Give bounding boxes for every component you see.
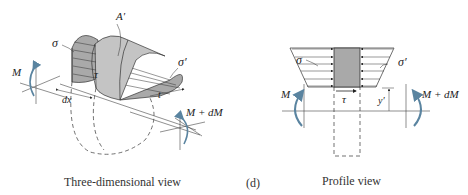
label-y-prime: y′ bbox=[377, 95, 385, 106]
label-moment-right: M + dM bbox=[185, 106, 224, 118]
label-sigma-prime-profile: σ′ bbox=[398, 55, 407, 69]
label-dx: dx bbox=[62, 94, 72, 105]
caption-three-dimensional: Three-dimensional view bbox=[64, 175, 181, 190]
figure-label: (d) bbox=[246, 176, 260, 191]
profile-view: σ σ′ τ M M + dM y′ bbox=[280, 48, 460, 156]
three-dimensional-view: σ A′ τ σ′ M dx t M + dM bbox=[11, 10, 224, 154]
moment-arrow-left bbox=[30, 68, 34, 96]
label-moment-left-profile: M bbox=[280, 88, 291, 100]
moment-arrow-left-profile bbox=[295, 92, 302, 126]
shaded-element bbox=[334, 48, 360, 87]
label-area: A′ bbox=[115, 10, 126, 22]
caption-profile: Profile view bbox=[322, 174, 381, 189]
label-moment-right-profile: M + dM bbox=[421, 88, 460, 100]
label-t: t bbox=[158, 89, 161, 100]
label-sigma-prime: σ′ bbox=[178, 55, 187, 69]
moment-arrow-right bbox=[182, 118, 188, 144]
label-sigma: σ bbox=[52, 36, 59, 50]
label-sigma-profile: σ bbox=[296, 53, 303, 67]
label-tau-profile: τ bbox=[342, 93, 347, 105]
dashed-extension bbox=[334, 87, 360, 156]
moment-arrow-right-profile bbox=[414, 92, 421, 126]
figure-canvas: σ A′ τ σ′ M dx t M + dM bbox=[0, 0, 468, 195]
label-moment-left: M bbox=[11, 66, 22, 78]
